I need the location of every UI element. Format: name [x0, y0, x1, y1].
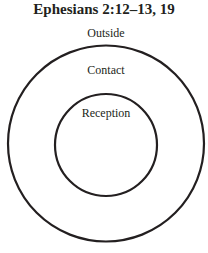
- concentric-circles: [0, 0, 208, 253]
- label-reception: Reception: [56, 106, 156, 120]
- label-contact: Contact: [66, 63, 146, 77]
